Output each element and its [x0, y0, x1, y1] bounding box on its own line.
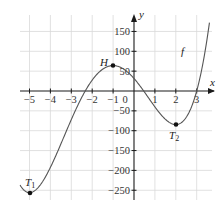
y-axis-arrow-icon [131, 14, 137, 22]
y-tick-label: −100 [108, 125, 130, 136]
x-tick-label: −1 [108, 94, 119, 105]
x-axis-label: x [209, 76, 215, 88]
label-t2: T2 [169, 129, 179, 143]
point-h [111, 63, 116, 68]
y-tick-label: −150 [108, 145, 130, 156]
x-tick-label: −2 [87, 94, 98, 105]
x-tick-label: 0 [122, 94, 127, 105]
y-tick-label: 100 [114, 46, 130, 57]
x-tick-label: −4 [45, 94, 57, 105]
x-tick-label: 1 [152, 94, 157, 105]
label-t1: T1 [25, 176, 35, 190]
point-t1 [28, 191, 33, 196]
point-t2 [174, 122, 179, 127]
y-tick-label: −200 [108, 165, 130, 176]
x-tick-label: −5 [24, 94, 35, 105]
x-axis-arrow-icon [208, 88, 215, 94]
y-tick-label: −50 [114, 105, 130, 116]
label-h: H [99, 56, 109, 68]
x-tick-label: −3 [66, 94, 77, 105]
x-tick-label: 2 [173, 94, 178, 105]
y-tick-label: −250 [108, 185, 130, 196]
function-graph: x y −5−4−3−2−1012315010050−50−100−150−20… [0, 0, 223, 211]
y-tick-label: 150 [114, 26, 130, 37]
y-axis-label: y [138, 8, 144, 20]
